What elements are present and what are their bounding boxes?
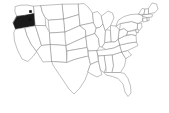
state-NJ[interactable] — [138, 23, 143, 31]
state-WY[interactable] — [49, 19, 66, 33]
us-map-container — [0, 0, 169, 113]
map-marker-2[interactable] — [29, 18, 31, 20]
state-NM[interactable] — [51, 45, 67, 63]
state-AL[interactable] — [105, 55, 114, 73]
state-CT[interactable] — [143, 18, 148, 23]
state-CO[interactable] — [50, 32, 66, 46]
state-FL[interactable] — [104, 73, 131, 97]
state-ME[interactable] — [149, 3, 159, 14]
state-MN[interactable] — [79, 4, 94, 26]
state-NH[interactable] — [144, 9, 149, 15]
state-RI[interactable] — [147, 17, 149, 21]
state-MA[interactable] — [143, 14, 153, 18]
us-map-svg — [0, 0, 169, 113]
state-TX[interactable] — [52, 56, 91, 94]
map-marker-1[interactable] — [29, 10, 32, 13]
